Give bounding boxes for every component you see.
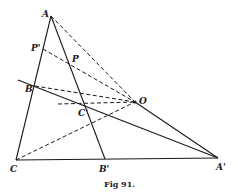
dashed-C-O — [16, 102, 135, 160]
dashed-B-O — [35, 86, 135, 102]
label-C-prime: C' — [78, 108, 88, 118]
line-A-B-prime — [51, 16, 105, 159]
label-P-prime: P' — [30, 43, 41, 53]
label-P: P — [71, 54, 79, 64]
dashed-horizontal-O — [58, 102, 135, 104]
dashed-A-A-prime — [51, 16, 135, 102]
figure-caption: Fig 91. — [104, 179, 135, 189]
label-A-prime: A' — [215, 162, 226, 172]
label-C: C — [10, 164, 18, 174]
line-A-C — [16, 16, 51, 160]
label-A: A — [41, 9, 49, 19]
label-B: B — [24, 84, 33, 94]
point-O-marker — [134, 101, 137, 104]
dashed-P-prime-O — [43, 49, 135, 102]
line-C-A-prime — [16, 158, 218, 160]
geometry-figure: A P' P B C' O C B' A' Fig 91. — [0, 0, 238, 193]
label-O: O — [139, 96, 147, 106]
label-B-prime: B' — [98, 164, 109, 174]
